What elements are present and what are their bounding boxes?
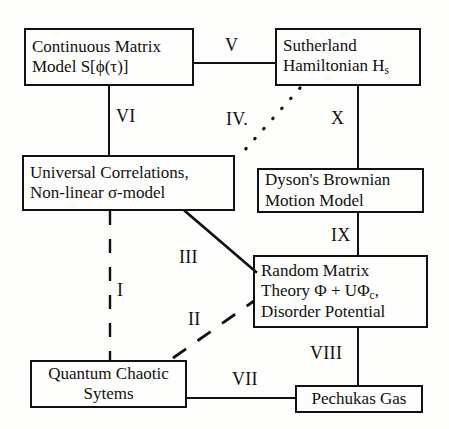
node-line-1: Random Matrix: [255, 261, 426, 281]
edge-v-line: [194, 62, 275, 64]
edge-label-ix: IX: [331, 226, 351, 244]
node-line-1: Universal Correlations,: [24, 163, 233, 183]
edge-label-iii: III: [179, 248, 198, 266]
node-line-1: Continuous Matrix: [26, 37, 192, 57]
node-line-2-subscript: s: [385, 64, 390, 77]
edge-label-viii: VIII: [310, 344, 342, 362]
node-continuous-matrix-model[interactable]: Continuous Matrix Model S[ϕ(τ)]: [24, 28, 194, 86]
node-line-1: Sutherland: [277, 36, 419, 56]
node-line-2-tail: ,: [375, 281, 379, 300]
node-line-2: Theory Φ + UΦc,: [255, 281, 426, 303]
node-quantum-chaotic-systems[interactable]: Quantum Chaotic Sytems: [30, 360, 187, 408]
edge-vi-line: [108, 86, 110, 155]
edge-label-i: I: [117, 281, 123, 299]
edge-label-v: V: [225, 36, 238, 54]
edge-ii-line: [173, 301, 254, 358]
edge-x-line: [357, 86, 359, 168]
node-dysons-brownian-motion[interactable]: Dyson's Brownian Motion Model: [257, 168, 424, 213]
edge-label-x: X: [331, 109, 344, 127]
edge-viii-line: [357, 328, 359, 385]
node-line-2: Non-linear σ-model: [24, 183, 233, 203]
edge-label-vi: VI: [116, 107, 136, 125]
node-sutherland-hamiltonian[interactable]: Sutherland Hamiltonian Hs: [275, 28, 421, 86]
node-pechukas-gas[interactable]: Pechukas Gas: [295, 385, 423, 413]
node-universal-correlations[interactable]: Universal Correlations, Non-linear σ-mod…: [22, 155, 235, 211]
node-line-1: Quantum Chaotic: [32, 364, 185, 384]
edge-label-vii: VII: [232, 370, 258, 388]
diagram-canvas: Continuous Matrix Model S[ϕ(τ)] Sutherla…: [0, 0, 449, 429]
node-line-2: Sytems: [32, 384, 185, 404]
edge-label-iv: IV.: [226, 110, 248, 128]
edge-iv-line: [243, 88, 300, 152]
node-line-3: Disorder Potential: [255, 302, 426, 322]
node-line-2-text: Hamiltonian H: [283, 56, 385, 75]
node-random-matrix-theory[interactable]: Random Matrix Theory Φ + UΦc, Disorder P…: [253, 255, 428, 328]
node-line-2: Model S[ϕ(τ)]: [26, 57, 192, 77]
node-line-1: Pechukas Gas: [297, 389, 421, 409]
node-line-1: Dyson's Brownian: [259, 170, 422, 190]
node-line-2-text: Theory Φ + UΦ: [261, 281, 370, 300]
edge-vii-line: [187, 397, 295, 399]
edge-ix-line: [357, 213, 359, 255]
node-line-2: Hamiltonian Hs: [277, 56, 419, 78]
edge-label-ii: II: [188, 310, 201, 328]
node-line-2: Motion Model: [259, 191, 422, 211]
